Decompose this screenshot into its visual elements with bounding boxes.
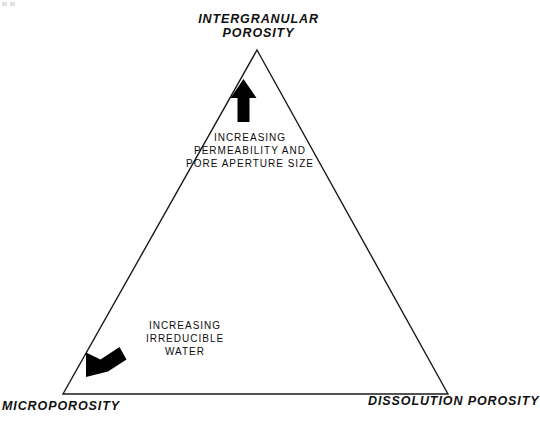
up-arrow-icon xyxy=(231,79,257,122)
vertex-label-line-2: POROSITY xyxy=(0,26,517,40)
vertex-label-dissolution-porosity: DISSOLUTION POROSITY xyxy=(368,394,540,408)
vertex-label-line-1: INTERGRANULAR xyxy=(0,12,517,26)
vertex-label-microporosity: MICROPOROSITY xyxy=(2,399,120,413)
annotation-upper-line-1: INCREASING xyxy=(160,131,340,144)
annotation-upper-line-2: PERMEABILITY AND xyxy=(160,144,340,157)
annotation-upper-line-3: PORE APERTURE SIZE xyxy=(160,157,340,170)
annotation-lower-line-1: INCREASING xyxy=(120,319,250,332)
annotation-lower-line-2: IRREDUCIBLE xyxy=(120,332,250,345)
annotation-increasing-permeability: INCREASING PERMEABILITY AND PORE APERTUR… xyxy=(160,131,340,170)
annotation-lower-line-3: WATER xyxy=(120,345,250,358)
annotation-increasing-irreducible-water: INCREASING IRREDUCIBLE WATER xyxy=(120,319,250,358)
vertex-label-intergranular-porosity: INTERGRANULAR POROSITY xyxy=(0,12,517,40)
